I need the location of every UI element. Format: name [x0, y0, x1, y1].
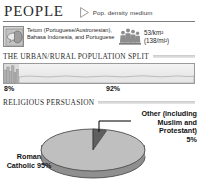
religion-title: RELIGIOUS PERSUASION — [3, 98, 94, 107]
page-title: PEOPLE — [4, 4, 64, 19]
pop-density-label: Pop. density medium — [93, 9, 153, 16]
urban-rural-header: THE URBAN/RURAL POPULATION SPLIT — [3, 52, 195, 61]
density-value: 53/km² (138/mi²) — [144, 26, 169, 44]
religion-section: RELIGIOUS PERSUASION Other (including Mu… — [0, 98, 198, 188]
triangle-right-icon — [80, 7, 89, 18]
fact-density: 53/km² (138/mi²) — [119, 26, 193, 47]
pie-label-roman-catholic: Roman Catholic 95% — [1, 153, 57, 170]
page-header: PEOPLE Pop. density medium — [0, 0, 198, 20]
section-divider — [98, 101, 195, 104]
speech-language-icon — [3, 26, 24, 47]
density-value-metric: 53/km² — [144, 29, 169, 37]
rural-percent-label: 92% — [106, 85, 120, 92]
fact-language: Tetum (Portuguese/Austronesian), Bahasa … — [3, 26, 115, 47]
section-divider — [153, 55, 195, 58]
pop-density-note: Pop. density medium — [80, 7, 153, 18]
urban-rural-legend: 8% 92% — [3, 85, 195, 96]
urban-rural-section: THE URBAN/RURAL POPULATION SPLIT — [0, 52, 198, 96]
pie-label-other: Other (including Muslim and Protestant) … — [123, 110, 197, 144]
pie-label-other-line4: 5% — [123, 136, 197, 145]
language-value: Tetum (Portuguese/Austronesian), Bahasa … — [27, 26, 115, 40]
crowd-people-icon — [119, 26, 141, 46]
urban-percent-label: 8% — [4, 85, 14, 92]
density-value-imperial: (138/mi²) — [144, 37, 169, 45]
pie-label-catholic-line2: Catholic 95% — [1, 162, 57, 171]
urban-rural-title: THE URBAN/RURAL POPULATION SPLIT — [3, 52, 149, 61]
urban-rural-bar-chart — [3, 63, 195, 84]
facts-row: Tetum (Portuguese/Austronesian), Bahasa … — [0, 22, 198, 47]
pie-label-other-line3: Protestant) — [123, 127, 197, 136]
religion-header: RELIGIOUS PERSUASION — [3, 98, 195, 107]
